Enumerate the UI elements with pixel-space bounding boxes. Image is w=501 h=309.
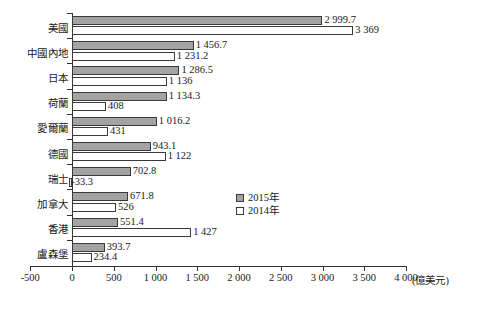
bar-德國-2015年 bbox=[72, 142, 151, 151]
category-tick bbox=[67, 164, 72, 165]
category-label-5: 德國 bbox=[48, 146, 68, 161]
bar-value-label: 408 bbox=[108, 101, 124, 111]
bar-chart: -50005001 0001 5002 0002 5003 0003 5004 … bbox=[0, 0, 501, 309]
x-tick bbox=[156, 266, 157, 271]
bar-value-label: 671.8 bbox=[130, 191, 154, 201]
category-label-3: 荷蘭 bbox=[48, 95, 68, 110]
category-label-1: 中國內地 bbox=[27, 45, 68, 60]
legend-item-2015: 2015年 bbox=[236, 191, 279, 204]
legend-label-2015: 2015年 bbox=[248, 191, 279, 204]
bar-value-label: 526 bbox=[118, 202, 134, 212]
bar-德國-2014年 bbox=[72, 152, 166, 161]
category-label-8: 香港 bbox=[48, 221, 68, 236]
bar-value-label: 1 136 bbox=[169, 76, 193, 86]
x-axis-line bbox=[30, 266, 406, 267]
bar-value-label: 2 999.7 bbox=[324, 15, 356, 25]
legend-swatch-2014-icon bbox=[236, 207, 244, 215]
bar-value-label: 1 231.2 bbox=[177, 51, 209, 61]
bar-value-label: 1 122 bbox=[168, 151, 192, 161]
bar-日本-2015年 bbox=[72, 66, 179, 75]
bar-value-label: -33.3 bbox=[71, 177, 93, 187]
bar-美國-2014年 bbox=[72, 26, 353, 35]
category-label-9: 盧森堡 bbox=[37, 246, 68, 261]
category-tick bbox=[67, 189, 72, 190]
bar-愛爾蘭-2014年 bbox=[72, 127, 108, 136]
bar-瑞士-2015年 bbox=[72, 167, 131, 176]
bar-香港-2015年 bbox=[72, 218, 118, 227]
category-label-6: 瑞士 bbox=[48, 171, 68, 186]
legend-label-2014: 2014年 bbox=[248, 204, 279, 217]
legend-item-2014: 2014年 bbox=[236, 204, 279, 217]
bar-中國內地-2015年 bbox=[72, 41, 194, 50]
x-tick bbox=[114, 266, 115, 271]
bar-value-label: 551.4 bbox=[120, 217, 144, 227]
bar-加拿大-2014年 bbox=[72, 203, 116, 212]
bar-美國-2015年 bbox=[72, 16, 322, 25]
category-tick bbox=[67, 89, 72, 90]
chart-legend: 2015年 2014年 bbox=[236, 191, 279, 217]
bar-荷蘭-2014年 bbox=[72, 102, 106, 111]
bar-中國內地-2014年 bbox=[72, 52, 175, 61]
category-tick bbox=[67, 215, 72, 216]
bar-value-label: 1 134.3 bbox=[169, 91, 201, 101]
x-tick bbox=[239, 266, 240, 271]
category-tick bbox=[67, 38, 72, 39]
x-tick bbox=[72, 266, 73, 271]
category-label-4: 愛爾蘭 bbox=[37, 120, 68, 135]
bar-value-label: 1 427 bbox=[193, 227, 217, 237]
x-tick bbox=[406, 266, 407, 271]
bar-value-label: 234.4 bbox=[94, 252, 118, 262]
bar-盧森堡-2014年 bbox=[72, 253, 92, 262]
bar-value-label: 431 bbox=[110, 126, 126, 136]
category-label-0: 美國 bbox=[48, 20, 68, 35]
x-tick bbox=[323, 266, 324, 271]
bar-value-label: 1 016.2 bbox=[159, 116, 191, 126]
plot-area: -50005001 0001 5002 0002 5003 0003 5004 … bbox=[0, 0, 501, 309]
x-tick bbox=[30, 266, 31, 271]
category-tick bbox=[67, 13, 72, 14]
category-label-2: 日本 bbox=[48, 70, 68, 85]
x-tick bbox=[197, 266, 198, 271]
bar-日本-2014年 bbox=[72, 77, 167, 86]
bar-value-label: 1 286.5 bbox=[181, 65, 213, 75]
category-tick bbox=[67, 139, 72, 140]
category-tick bbox=[67, 63, 72, 64]
bar-value-label: 702.8 bbox=[133, 166, 157, 176]
bar-香港-2014年 bbox=[72, 228, 191, 237]
legend-swatch-2015-icon bbox=[236, 194, 244, 202]
x-tick bbox=[281, 266, 282, 271]
x-axis-unit-label: (億美元) bbox=[412, 272, 449, 287]
bar-value-label: 1 456.7 bbox=[196, 40, 228, 50]
category-label-7: 加拿大 bbox=[37, 196, 68, 211]
category-tick bbox=[67, 114, 72, 115]
category-tick bbox=[67, 240, 72, 241]
bar-value-label: 3 369 bbox=[355, 25, 379, 35]
x-tick bbox=[364, 266, 365, 271]
